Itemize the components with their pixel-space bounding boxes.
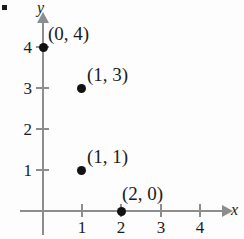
y-tick-label-3: 3 xyxy=(14,80,32,97)
x-tick-mark-4 xyxy=(199,204,201,217)
y-tick-mark-1 xyxy=(36,169,49,171)
x-tick-mark-1 xyxy=(81,204,83,217)
point-label-0-4: (0, 4) xyxy=(48,24,89,43)
x-tick-mark-3 xyxy=(160,204,162,217)
x-tick-label-4: 4 xyxy=(191,219,209,236)
bullet-marker-icon xyxy=(2,5,7,10)
point-label-1-1: (1, 1) xyxy=(87,147,128,166)
data-point xyxy=(77,166,86,175)
y-tick-mark-2 xyxy=(36,128,49,130)
x-tick-label-1: 1 xyxy=(73,219,91,236)
y-axis-label: y xyxy=(37,0,44,16)
point-label-1-3: (1, 3) xyxy=(87,65,128,84)
data-point xyxy=(39,43,48,52)
y-tick-mark-3 xyxy=(36,87,49,89)
data-point xyxy=(77,84,86,93)
data-point xyxy=(117,207,126,216)
x-tick-label-2: 2 xyxy=(112,219,130,236)
coordinate-plane-figure: y x 4 3 2 1 1 2 3 4 (0, 4) (1, 3) (1, 1)… xyxy=(0,0,244,239)
point-label-2-0: (2, 0) xyxy=(122,184,163,203)
y-tick-label-1: 1 xyxy=(14,162,32,179)
y-tick-label-4: 4 xyxy=(14,39,32,56)
x-tick-label-3: 3 xyxy=(152,219,170,236)
x-axis-label: x xyxy=(231,202,238,218)
y-tick-label-2: 2 xyxy=(14,121,32,138)
